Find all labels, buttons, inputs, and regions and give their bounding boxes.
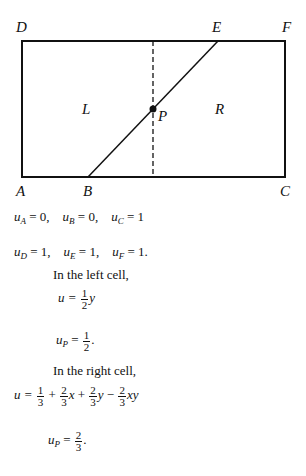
label-r: R <box>215 102 224 117</box>
label-b: B <box>83 184 92 199</box>
right-cell-up: uP = 23. <box>48 430 87 453</box>
label-p: P <box>158 109 167 124</box>
right-cell-heading: In the right cell, <box>53 363 136 379</box>
label-e: E <box>212 20 221 35</box>
left-cell-up: uP = 12. <box>56 330 95 353</box>
label-d: D <box>16 20 27 35</box>
value-f: uF = 1. <box>112 244 148 259</box>
value-e: uE = 1, <box>64 244 100 259</box>
value-b: uB = 0, <box>63 209 99 224</box>
left-cell-heading: In the left cell, <box>53 267 129 283</box>
label-a: A <box>16 184 25 199</box>
left-cell-equation: u = 12y <box>58 288 95 311</box>
value-d: uD = 1, <box>14 244 51 259</box>
values-row-2: uD = 1, uE = 1, uF = 1. <box>14 245 148 261</box>
value-c: uC = 1 <box>111 209 144 224</box>
label-f: F <box>282 20 291 35</box>
value-a: uA = 0, <box>14 209 50 224</box>
grid-figure <box>0 0 306 200</box>
label-c: C <box>280 184 290 199</box>
right-cell-equation: u = 13 + 23x + 23y − 23xy <box>14 385 138 408</box>
values-row-1: uA = 0, uB = 0, uC = 1 <box>14 210 144 226</box>
point-p-dot <box>150 106 157 113</box>
label-l: L <box>82 102 90 117</box>
